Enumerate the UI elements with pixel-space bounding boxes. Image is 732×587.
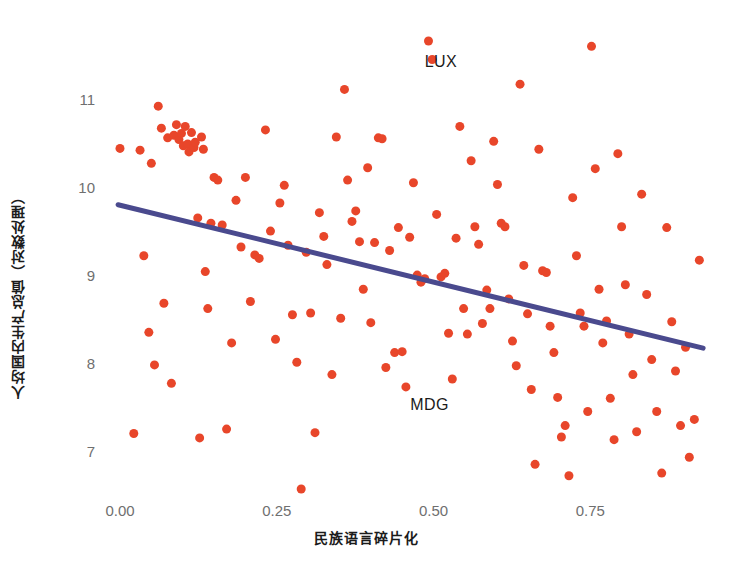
data-point — [642, 290, 651, 299]
data-point — [610, 435, 619, 444]
data-point — [591, 164, 600, 173]
data-point — [116, 144, 125, 153]
data-point — [288, 310, 297, 319]
data-point — [136, 146, 145, 155]
data-point — [652, 407, 661, 416]
data-point — [370, 238, 379, 247]
data-point — [523, 309, 532, 318]
data-point — [440, 269, 449, 278]
data-point — [470, 222, 479, 231]
y-tick-label: 11 — [55, 92, 95, 107]
data-point — [306, 308, 315, 317]
figure-caption — [0, 572, 732, 587]
data-point — [489, 137, 498, 146]
data-point — [197, 132, 206, 141]
y-tick-label: 8 — [55, 356, 95, 371]
y-tick-label: 10 — [55, 180, 95, 195]
data-point — [598, 338, 607, 347]
data-point — [455, 122, 464, 131]
data-point — [172, 120, 181, 129]
data-point — [187, 128, 196, 137]
data-point — [424, 37, 433, 46]
x-tick-label: 0.00 — [90, 503, 150, 518]
data-point — [546, 322, 555, 331]
data-point — [394, 223, 403, 232]
data-point — [261, 125, 270, 134]
data-point — [405, 233, 414, 242]
plot-area — [0, 0, 732, 587]
data-point — [203, 304, 212, 313]
data-point — [459, 304, 468, 313]
data-point — [579, 322, 588, 331]
data-point — [319, 232, 328, 241]
data-point — [327, 370, 336, 379]
data-point — [292, 358, 301, 367]
data-point — [237, 242, 246, 251]
data-point — [359, 285, 368, 294]
data-point — [336, 314, 345, 323]
scatter-chart-figure: 人均国内生产总值（对数处理） 民族语言碎片化 7891011 0.000.250… — [0, 0, 732, 587]
data-point — [280, 181, 289, 190]
data-point — [671, 367, 680, 376]
data-point — [139, 251, 148, 260]
data-point — [621, 280, 630, 289]
data-point — [690, 415, 699, 424]
data-point — [519, 261, 528, 270]
data-point — [493, 180, 502, 189]
data-point — [553, 393, 562, 402]
data-point — [557, 433, 566, 442]
x-tick-label: 0.75 — [560, 503, 620, 518]
y-axis-title-text: 人均国内生产总值（对数处理） — [9, 189, 29, 399]
data-point — [297, 484, 306, 493]
data-point — [448, 374, 457, 383]
data-point — [159, 299, 168, 308]
y-tick-label: 9 — [55, 268, 95, 283]
data-point — [275, 198, 284, 207]
data-point — [315, 208, 324, 217]
data-point — [647, 355, 656, 364]
data-point — [595, 285, 604, 294]
data-point — [241, 173, 250, 182]
data-point — [385, 246, 394, 255]
data-point — [351, 206, 360, 215]
data-point — [583, 407, 592, 416]
data-point — [343, 176, 352, 185]
data-point — [255, 254, 264, 263]
data-point — [332, 132, 341, 141]
data-point — [587, 42, 596, 51]
data-point — [432, 210, 441, 219]
data-point — [564, 471, 573, 480]
data-point — [463, 330, 472, 339]
data-point — [246, 297, 255, 306]
data-point — [527, 385, 536, 394]
data-point — [154, 102, 163, 111]
data-point — [355, 237, 364, 246]
data-point — [467, 156, 476, 165]
x-axis-title: 民族语言碎片化 — [0, 527, 732, 547]
data-point — [617, 222, 626, 231]
data-point — [662, 223, 671, 232]
data-point — [150, 360, 159, 369]
regression-trend-line — [118, 205, 703, 348]
data-point — [474, 240, 483, 249]
data-point — [657, 469, 666, 478]
data-point — [628, 370, 637, 379]
data-point — [478, 319, 487, 328]
data-points-layer — [116, 37, 704, 494]
data-point — [227, 338, 236, 347]
data-point — [676, 421, 685, 430]
data-point — [266, 227, 275, 236]
data-point — [516, 80, 525, 89]
data-point — [271, 335, 280, 344]
data-point — [485, 304, 494, 313]
data-point — [157, 124, 166, 133]
data-point — [398, 347, 407, 356]
data-point — [144, 328, 153, 337]
data-point — [452, 234, 461, 243]
data-point — [667, 317, 676, 326]
data-point — [409, 178, 418, 187]
data-point — [508, 337, 517, 346]
data-point — [606, 394, 615, 403]
data-point — [167, 379, 176, 388]
data-point — [534, 145, 543, 154]
